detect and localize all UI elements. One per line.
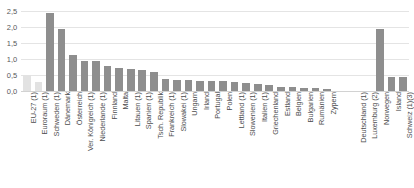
x-tick-label: Spanien (1)	[145, 92, 152, 129]
bar	[81, 61, 89, 91]
bar	[138, 70, 146, 91]
y-tick-label: 2,0	[7, 23, 17, 32]
x-tick-label: Malta	[122, 92, 129, 110]
x-tick-label: Niederlande (1)	[99, 92, 106, 142]
bar	[69, 55, 77, 91]
x-tick-label: Österreich	[76, 92, 83, 125]
bar	[376, 29, 384, 91]
x-tick-label: Frankreich (1)	[168, 92, 175, 137]
x-tick-label: Ver. Königreich (1)	[87, 92, 94, 151]
bar	[173, 80, 181, 91]
bar	[388, 77, 396, 91]
x-tick-label: Tsch. Republik	[157, 92, 164, 139]
x-tick-label: Belgien	[295, 92, 302, 116]
x-tick-label: EU-27 (1)	[30, 92, 37, 123]
x-tick-label: Estland	[284, 92, 291, 116]
bar	[323, 89, 331, 91]
x-tick-label: Lettland (1)	[238, 92, 245, 128]
y-tick-label: 0,0	[7, 87, 17, 96]
bar	[219, 81, 227, 91]
bar	[196, 81, 204, 91]
x-tick-label: Slowenien (1)	[249, 92, 256, 136]
bar	[35, 82, 43, 91]
x-tick-label: Dänemark	[64, 92, 71, 125]
x-tick-label: Polen	[226, 92, 233, 110]
bar	[104, 66, 112, 91]
bar	[312, 88, 320, 91]
bar	[399, 77, 407, 91]
x-tick-label: Zypern	[330, 92, 337, 114]
bar	[300, 88, 308, 91]
x-tick-label: Euroraum (1)	[41, 92, 48, 134]
y-tick-label: 1,5	[7, 39, 17, 48]
x-tick-label: Norwegen	[383, 92, 390, 125]
x-tick-label: Bulgarien	[307, 92, 314, 122]
bar	[242, 83, 250, 91]
bar	[208, 81, 216, 91]
x-tick-label: Deutschland (1)	[360, 92, 367, 143]
x-tick-label: Slowakei (1)	[180, 92, 187, 132]
bar	[277, 87, 285, 91]
x-tick-label: Griechenland	[272, 92, 279, 135]
bar	[23, 75, 31, 91]
x-tick-label: Rumänien	[318, 92, 325, 125]
x-tick-label: Litauen (1)	[134, 92, 141, 126]
bar	[231, 82, 239, 91]
bar	[185, 80, 193, 91]
x-tick-label: Schweiz (1)(3)	[406, 92, 413, 138]
bar	[127, 69, 135, 91]
x-tick-label: Island	[395, 92, 402, 111]
x-tick-label: Portugal	[214, 92, 221, 119]
x-tick-label: Schweden (1)	[53, 92, 60, 136]
bar	[150, 72, 158, 91]
x-axis-labels: EU-27 (1)Euroraum (1)Schweden (1)Dänemar…	[21, 92, 409, 188]
y-tick-label: 0,5	[7, 71, 17, 80]
y-tick-label: 2,5	[7, 7, 17, 16]
bar	[289, 87, 297, 91]
bar	[254, 84, 262, 91]
bar	[162, 79, 170, 91]
bar	[46, 13, 54, 91]
y-axis: 0,00,51,01,52,02,5	[0, 11, 19, 91]
bar	[58, 29, 66, 91]
bar	[265, 85, 273, 91]
bar	[115, 68, 123, 91]
bar	[92, 61, 100, 91]
x-tick-label: Luxemburg (2)	[371, 92, 378, 139]
x-tick-label: Ungarn	[191, 92, 198, 116]
bars-layer	[21, 11, 409, 91]
x-tick-label: Italien (1)	[261, 92, 268, 122]
x-tick-label: Irland	[203, 92, 210, 110]
y-tick-label: 1,0	[7, 55, 17, 64]
x-tick-label: Finnland	[111, 92, 118, 120]
